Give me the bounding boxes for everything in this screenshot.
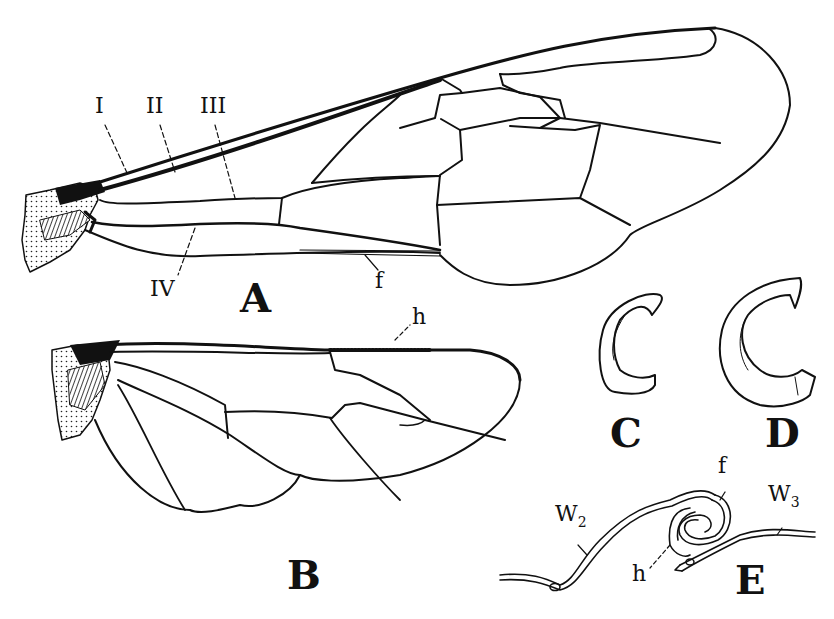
label-vein-II: II xyxy=(146,95,163,117)
panel-label-e: E xyxy=(735,560,766,600)
label-section-f: f xyxy=(718,455,726,477)
hindwing-b xyxy=(52,340,520,512)
panel-label-c: C xyxy=(610,413,642,453)
label-hamuli-h: h xyxy=(412,306,426,328)
label-w2-sub: 2 xyxy=(578,514,587,530)
label-w2-main: W xyxy=(555,501,578,526)
hook-c xyxy=(600,294,662,394)
label-w3: W3 xyxy=(768,483,800,509)
wing-coupling-figure: I II III IV f A h B C D f h W2 W3 E xyxy=(0,0,834,619)
panel-label-b: B xyxy=(287,555,321,595)
label-vein-I: I xyxy=(95,95,104,117)
hook-d xyxy=(720,278,815,406)
label-w3-sub: 3 xyxy=(791,494,800,510)
label-vein-III: III xyxy=(200,95,226,117)
label-section-h: h xyxy=(632,563,646,585)
forewing-a xyxy=(22,28,790,285)
label-fold-f: f xyxy=(375,270,383,292)
label-w2: W2 xyxy=(555,503,587,529)
label-w3-main: W xyxy=(768,481,791,506)
label-vein-IV: IV xyxy=(150,278,175,300)
panel-label-a: A xyxy=(240,278,271,318)
panel-label-d: D xyxy=(765,413,800,453)
